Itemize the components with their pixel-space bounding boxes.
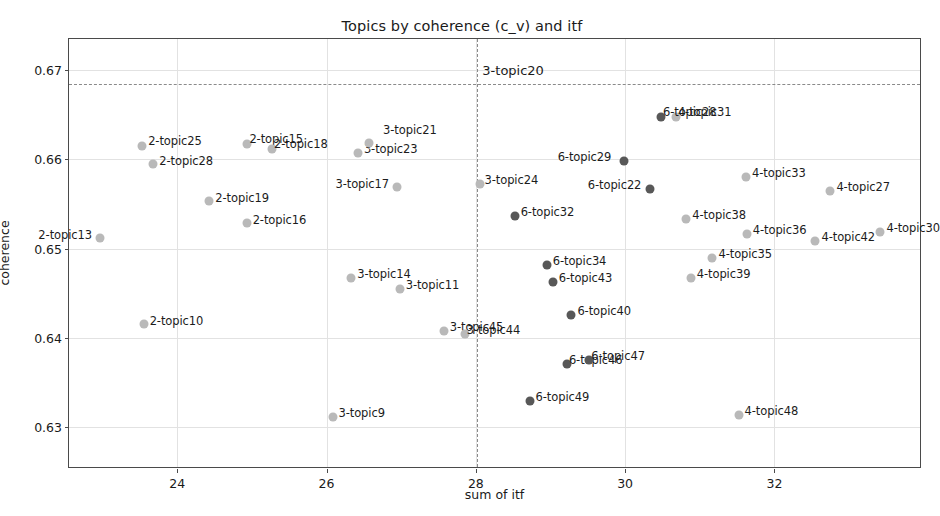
data-point-label: 3-topic11: [406, 278, 460, 292]
data-point-label: 2-topic19: [215, 191, 269, 205]
x-axis-tick: [177, 469, 178, 473]
y-axis-tick: [65, 427, 69, 428]
gridline-vertical: [774, 39, 775, 467]
gridline-horizontal: [69, 427, 920, 428]
y-axis-tick: [65, 70, 69, 71]
data-point-label: 6-topic43: [559, 271, 613, 285]
data-point[interactable]: [742, 173, 751, 182]
data-point-label: 6-topic49: [536, 390, 590, 404]
data-point-label: 2-topic18: [274, 137, 328, 151]
y-axis-tick-label: 0.66: [34, 152, 62, 167]
x-axis-tick: [774, 469, 775, 473]
data-point-label: 4-topic35: [718, 247, 772, 261]
data-point-label: 6-topic28: [663, 105, 717, 119]
data-point-label: 3-topic17: [335, 177, 389, 191]
y-axis-tick-label: 0.64: [34, 330, 62, 345]
data-point-label: 2-topic16: [253, 213, 307, 227]
y-axis-tick: [65, 159, 69, 160]
x-axis-label: sum of itf: [68, 487, 921, 502]
y-axis-tick-label: 0.67: [34, 63, 62, 78]
x-axis-tick: [327, 469, 328, 473]
data-point-label: 4-topic33: [752, 166, 806, 180]
data-point[interactable]: [205, 197, 214, 206]
data-point[interactable]: [525, 397, 534, 406]
data-point[interactable]: [149, 159, 158, 168]
data-point[interactable]: [645, 184, 654, 193]
data-point-label: 4-topic38: [692, 208, 746, 222]
gridline-vertical: [177, 39, 178, 467]
data-point[interactable]: [347, 273, 356, 282]
data-point[interactable]: [96, 233, 105, 242]
data-point-label: 2-topic28: [159, 154, 213, 168]
data-point[interactable]: [475, 180, 484, 189]
data-point[interactable]: [439, 327, 448, 336]
gridline-vertical: [625, 39, 626, 467]
data-point[interactable]: [395, 284, 404, 293]
data-point[interactable]: [139, 320, 148, 329]
gridline-horizontal: [69, 338, 920, 339]
data-point-label: 4-topic42: [821, 230, 875, 244]
data-point-label: 4-topic48: [745, 404, 799, 418]
data-point[interactable]: [682, 215, 691, 224]
data-point-label: 2-topic10: [150, 314, 204, 328]
data-point-label: 4-topic30: [886, 221, 940, 235]
data-point-label: 6-topic22: [588, 178, 642, 192]
data-point-label: 3-topic44: [467, 323, 521, 337]
data-point-label: 6-topic32: [521, 205, 575, 219]
data-point-label: 6-topic47: [591, 349, 645, 363]
data-point[interactable]: [567, 310, 576, 319]
data-point[interactable]: [365, 139, 374, 148]
reference-line-annotation: 3-topic20: [482, 63, 544, 78]
x-axis-tick: [625, 469, 626, 473]
data-point-label: 6-topic40: [577, 304, 631, 318]
data-point[interactable]: [510, 211, 519, 220]
data-point-label: 2-topic25: [148, 134, 202, 148]
data-point[interactable]: [811, 236, 820, 245]
data-point[interactable]: [353, 149, 362, 158]
data-point[interactable]: [826, 186, 835, 195]
y-axis-tick: [65, 249, 69, 250]
data-point-label: 6-topic29: [558, 150, 612, 164]
data-point[interactable]: [742, 230, 751, 239]
gridline-horizontal: [69, 249, 920, 250]
data-point-label: 3-topic9: [339, 406, 385, 420]
data-point-label: 6-topic34: [553, 254, 607, 268]
chart-title: Topics by coherence (c_v) and itf: [0, 18, 924, 34]
y-axis-tick: [65, 338, 69, 339]
data-point[interactable]: [619, 157, 628, 166]
data-point-label: 3-topic24: [485, 173, 539, 187]
reference-line-horizontal: [69, 84, 920, 85]
data-point-label: 4-topic39: [697, 267, 751, 281]
data-point-label: 4-topic36: [753, 223, 807, 237]
x-axis-tick: [476, 469, 477, 473]
data-point[interactable]: [393, 183, 402, 192]
data-point-label: 2-topic13: [38, 228, 92, 242]
data-point[interactable]: [542, 261, 551, 270]
data-point[interactable]: [138, 142, 147, 151]
data-point[interactable]: [548, 278, 557, 287]
y-axis-label: coherence: [0, 220, 12, 285]
y-axis-tick-label: 0.65: [34, 241, 62, 256]
gridline-vertical: [327, 39, 328, 467]
data-point[interactable]: [876, 228, 885, 237]
plot-area: 24262830320.630.640.650.660.673-topic202…: [68, 38, 921, 468]
data-point[interactable]: [686, 273, 695, 282]
data-point[interactable]: [242, 218, 251, 227]
data-point-label: 4-topic27: [836, 180, 890, 194]
data-point[interactable]: [734, 411, 743, 420]
reference-line-vertical: [477, 39, 478, 467]
data-point-label: 3-topic14: [357, 267, 411, 281]
data-point[interactable]: [328, 413, 337, 422]
data-point-label: 3-topic21: [383, 123, 437, 137]
y-axis-tick-label: 0.63: [34, 419, 62, 434]
data-point[interactable]: [708, 254, 717, 263]
